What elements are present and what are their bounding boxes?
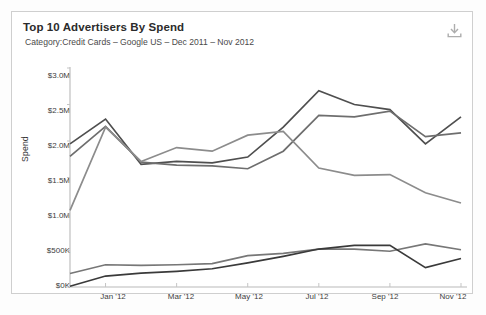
x-tick-label: May '12 (235, 293, 263, 301)
x-tick-label: Jan '12 (100, 293, 126, 301)
x-tick-label: Jul '12 (306, 293, 329, 301)
x-tick-label: Sep '12 (372, 293, 399, 301)
screenshot-root: Top 10 Advertisers By Spend Category:Cre… (0, 0, 486, 315)
plot-area: Spend $3.0M $2.5M $2.0M $1.5M $1.0M $500… (12, 12, 472, 293)
chart-card: Top 10 Advertisers By Spend Category:Cre… (11, 11, 473, 294)
line-chart-svg (12, 12, 472, 293)
chart-line-series-3 (70, 127, 461, 210)
chart-line-series-2 (70, 111, 461, 169)
x-tick-label: Nov '12 (440, 293, 467, 301)
chart-line-series-4 (70, 244, 461, 274)
x-tick-label: Mar '12 (168, 293, 194, 301)
chart-line-series-1 (70, 91, 461, 165)
